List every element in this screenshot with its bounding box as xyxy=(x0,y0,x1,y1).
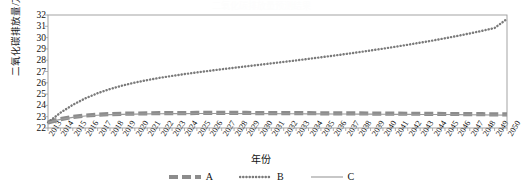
chart-legend: ABC xyxy=(0,168,522,186)
legend-swatch-a-icon xyxy=(168,172,202,182)
plot-border xyxy=(48,15,507,128)
chart-figure: 二氧化碳排放量预测结果 二氧化碳排放量/万t 22232425262728293… xyxy=(0,0,522,192)
legend-label: A xyxy=(206,172,213,182)
legend-swatch-c-icon xyxy=(310,172,344,182)
x-axis-title: 年份 xyxy=(0,151,522,166)
legend-item-b[interactable]: B xyxy=(239,172,284,182)
legend-item-a[interactable]: A xyxy=(168,172,213,182)
legend-label: B xyxy=(277,172,284,182)
series-line-c xyxy=(48,114,507,123)
series-line-b xyxy=(48,19,507,122)
legend-item-c[interactable]: C xyxy=(310,172,355,182)
legend-label: C xyxy=(348,172,355,182)
legend-swatch-b-icon xyxy=(239,172,273,182)
